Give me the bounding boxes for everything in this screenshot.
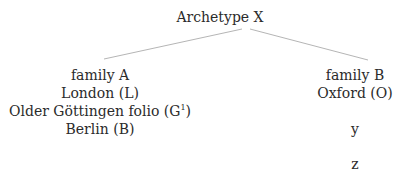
family-b-label: family B <box>326 66 384 84</box>
witness-older-gottingen-text: Older Göttingen folio (G <box>9 103 181 119</box>
descendant-z: z <box>351 155 358 173</box>
witness-gottingen-suffix: ) <box>186 103 191 119</box>
witness-london: London (L) <box>61 84 139 102</box>
witness-older-gottingen-folio: Older Göttingen folio (G1) <box>9 102 191 120</box>
descendant-y: y <box>351 120 359 138</box>
family-a-label: family A <box>71 66 129 84</box>
witness-oxford: Oxford (O) <box>317 84 393 102</box>
edge-archetype-to-family-a <box>104 29 242 59</box>
archetype-x-label: Archetype X <box>176 8 263 26</box>
witness-berlin: Berlin (B) <box>66 120 135 138</box>
edge-archetype-to-family-b <box>250 29 368 60</box>
